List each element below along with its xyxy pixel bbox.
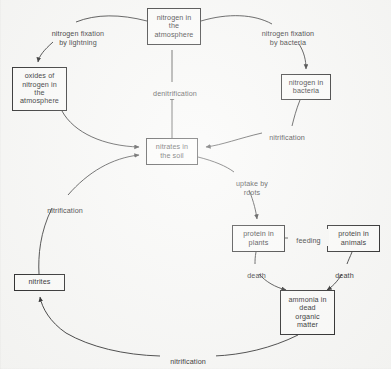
node-ammonia-in-dead-organic-matter[interactable]: ammonia in dead organic matter [280,290,335,335]
edge-label-feeding: feeding [288,229,329,246]
edge-bottom-to-nitrites [40,297,66,333]
edge-ammonia-to-bottom-nitrification [214,335,298,356]
edge-label-text: nitrogen fixation by lightning [52,29,104,46]
node-oxides-of-nitrogen-in-the-atmosphere[interactable]: oxides of nitrogen in the atmosphere [12,67,67,111]
edge-plants-to-death [255,252,256,264]
node-label: protein in animals [338,230,369,247]
edge-nitrites-to-left-nitrification [39,208,52,274]
edge-label-denitrification: denitrification [142,82,208,99]
node-protein-in-animals[interactable]: protein in animals [327,225,380,252]
edge-label-text: death [335,271,354,280]
node-label: protein in plants [243,230,274,247]
node-label: oxides of nitrogen in the atmosphere [20,72,59,106]
edge-label-death-plants: death [242,264,271,281]
node-label: nitrites [29,278,51,286]
edge-label-death-animals: death [330,264,359,281]
node-label: ammonia in dead organic matter [288,296,326,330]
edge-label-nitrification-nitrites-to-nitrates: nitrification [40,199,90,216]
edge-label-text: uptake by roots [236,179,268,196]
edge-bottom-nitrification-to-left [66,333,160,356]
edge-label-text: denitrification [153,89,197,98]
edge-nitrification-to-nitrates [206,133,262,147]
node-label: nitrates in the soil [156,143,188,160]
edge-label-nitrification-ammonia-to-nitrites: nitrification [160,350,216,367]
edge-left-nitrification-to-nitrates [68,155,139,195]
node-protein-in-plants[interactable]: protein in plants [232,225,285,252]
node-nitrates-in-the-soil[interactable]: nitrates in the soil [146,138,198,165]
edge-label-uptake-by-roots: uptake by roots [228,172,276,197]
nitrogen-cycle-diagram: nitrogen in the atmosphere oxides of nit… [0,0,391,369]
edge-label-text: nitrogen fixation by bacteria [262,29,314,46]
edge-animals-to-death [347,252,352,264]
node-nitrogen-in-bacteria[interactable]: nitrogen in bacteria [281,74,331,100]
node-nitrogen-in-the-atmosphere[interactable]: nitrogen in the atmosphere [147,8,201,45]
edge-label-text: nitrification [47,206,83,215]
node-label: nitrogen in the atmosphere [155,14,194,39]
edge-label-nitrogen-fixation-by-bacteria: nitrogen fixation by bacteria [242,22,334,47]
edge-label-nitrogen-fixation-by-lightning: nitrogen fixation by lightning [33,22,123,47]
edge-label-text: nitrification [170,357,206,366]
node-label: nitrogen in bacteria [289,79,324,96]
edge-bacteria-to-nitrification [292,100,300,126]
edge-nitrates-to-uptake [198,157,234,172]
node-nitrites[interactable]: nitrites [14,274,65,291]
edge-label-text: nitrification [269,133,305,142]
edge-label-text: feeding [296,236,320,245]
edge-label-nitrification-bacteria-to-nitrates: nitrification [262,126,312,143]
edge-oxides-to-nitrates [62,111,139,147]
edge-label-text: death [247,271,266,280]
edge-bacteria-label-to-box [299,44,306,69]
